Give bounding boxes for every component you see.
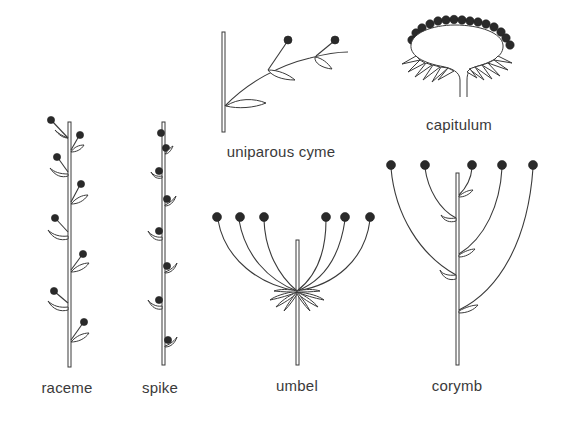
flower-head-icon bbox=[164, 336, 171, 343]
flower-head-icon bbox=[498, 161, 507, 170]
flower-head-icon bbox=[366, 213, 375, 222]
label-capitulum: capitulum bbox=[426, 116, 492, 133]
capitulum-drawing bbox=[402, 15, 514, 97]
flower-head-icon bbox=[77, 180, 84, 187]
label-spike: spike bbox=[142, 379, 178, 396]
corymb-drawing bbox=[387, 161, 538, 366]
flower-head-icon bbox=[76, 131, 83, 138]
raceme-main-stem bbox=[68, 122, 71, 367]
flower-head-icon bbox=[387, 161, 396, 170]
flower-head-icon bbox=[51, 214, 58, 221]
label-raceme: raceme bbox=[41, 379, 92, 396]
flower-head-icon bbox=[260, 213, 269, 222]
flower-head-icon bbox=[322, 213, 331, 222]
label-corymb: corymb bbox=[432, 377, 482, 394]
bract-icon bbox=[268, 70, 295, 80]
bract-icon bbox=[226, 100, 266, 108]
inflorescence-diagram bbox=[0, 0, 567, 425]
flower-head-icon bbox=[284, 36, 292, 44]
flower-head-icon bbox=[421, 161, 430, 170]
flower-head-icon bbox=[468, 161, 477, 170]
flower-head-icon bbox=[155, 296, 162, 303]
flower-head-icon bbox=[163, 262, 170, 269]
flower-head-icon bbox=[80, 318, 87, 325]
flower-head-icon bbox=[47, 116, 54, 123]
spike-drawing bbox=[148, 122, 177, 365]
uniparous-cyme-drawing bbox=[222, 32, 348, 132]
umbel-drawing bbox=[213, 213, 375, 366]
flower-head-icon bbox=[529, 161, 538, 170]
flower-head-icon bbox=[53, 153, 60, 160]
flower-head-icon bbox=[155, 167, 162, 174]
raceme-drawing bbox=[47, 116, 89, 367]
flower-head-icon bbox=[236, 213, 245, 222]
flower-head-icon bbox=[155, 227, 162, 234]
label-uniparous-cyme: uniparous cyme bbox=[227, 143, 336, 160]
spike-main-stem bbox=[162, 122, 165, 365]
flower-head-icon bbox=[163, 195, 170, 202]
flower-head-icon bbox=[157, 129, 164, 136]
umbel-main-stem bbox=[296, 240, 299, 365]
flower-head-icon bbox=[213, 213, 222, 222]
cyme-main-stem bbox=[222, 32, 225, 132]
bract-icon bbox=[315, 57, 332, 69]
receptacle bbox=[411, 25, 503, 97]
flower-head-icon bbox=[50, 287, 57, 294]
flower-head-icon bbox=[79, 250, 86, 257]
flower-head-icon bbox=[341, 213, 350, 222]
label-umbel: umbel bbox=[276, 377, 318, 394]
corymb-main-stem bbox=[456, 173, 459, 365]
flower-head-icon bbox=[331, 36, 339, 44]
